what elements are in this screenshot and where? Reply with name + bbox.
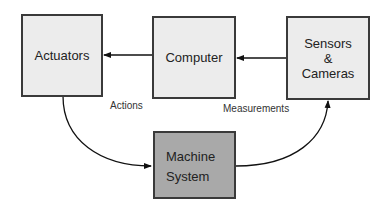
actuators-label: Actuators (35, 48, 90, 63)
sensors-cameras-box: Sensors & Cameras (286, 16, 370, 100)
computer-box: Computer (152, 16, 236, 99)
machine-label-line-2: System (166, 167, 209, 187)
sensors-label-line-1: Sensors (304, 36, 352, 51)
machine-system-box: Machine System (153, 131, 236, 199)
actuators-box: Actuators (21, 14, 103, 97)
sensors-label-line-2: & (324, 51, 333, 66)
sensors-label-line-3: Cameras (302, 66, 355, 81)
computer-label: Computer (165, 50, 222, 65)
measurements-edge-label: Measurements (223, 103, 289, 114)
machine-label-line-1: Machine (166, 147, 215, 167)
actions-edge-label: Actions (110, 100, 143, 111)
